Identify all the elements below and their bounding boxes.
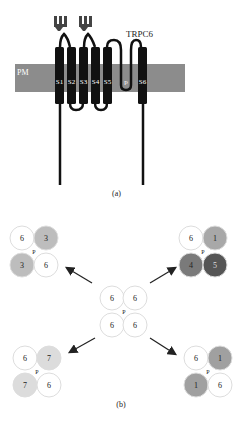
segment-label-s2: S2 — [68, 78, 76, 86]
svg-text:6: 6 — [133, 294, 137, 303]
svg-text:P: P — [122, 309, 126, 315]
svg-text:6: 6 — [47, 381, 51, 390]
tetramer-center: 6 6 6 6 P — [100, 286, 147, 337]
svg-text:6: 6 — [23, 354, 27, 363]
svg-text:6: 6 — [110, 294, 114, 303]
svg-text:P: P — [35, 369, 39, 375]
svg-text:6: 6 — [189, 234, 193, 243]
tetramer-top-left: 6 3 3 6 P — [10, 226, 58, 277]
svg-text:P: P — [201, 249, 205, 255]
svg-text:5: 5 — [213, 261, 217, 270]
segment-label-s3: S3 — [80, 78, 88, 86]
svg-text:6: 6 — [20, 234, 24, 243]
svg-text:6: 6 — [218, 381, 222, 390]
panel-b-caption: (b) — [116, 400, 126, 409]
membrane-label: PM — [17, 68, 29, 77]
segment-label-s4: S4 — [92, 78, 100, 86]
svg-text:3: 3 — [44, 234, 48, 243]
svg-text:1: 1 — [194, 381, 198, 390]
segment-label-s6: S6 — [139, 78, 147, 86]
segment-label-p: p — [124, 78, 128, 86]
panel-a: PM S1 S2 — [15, 16, 185, 198]
tetramer-top-right: 6 1 4 5 P — [179, 226, 227, 277]
panel-b: 6 3 3 6 P 6 1 4 5 P 6 6 6 6 — [10, 226, 232, 409]
tetramer-bottom-left: 6 7 7 6 P — [13, 346, 61, 397]
segment-label-s1: S1 — [56, 78, 64, 86]
arrows — [67, 268, 175, 354]
svg-text:6: 6 — [133, 321, 137, 330]
svg-text:1: 1 — [218, 354, 222, 363]
svg-text:6: 6 — [110, 321, 114, 330]
panel-a-caption: (a) — [112, 189, 121, 198]
svg-text:1: 1 — [213, 234, 217, 243]
protein-title: TRPC6 — [126, 29, 154, 39]
trpc6-figure: PM S1 S2 — [0, 0, 245, 424]
svg-text:P: P — [32, 249, 36, 255]
glycosylation-icon — [54, 16, 92, 31]
svg-text:6: 6 — [194, 354, 198, 363]
svg-text:3: 3 — [20, 261, 24, 270]
svg-text:4: 4 — [189, 261, 193, 270]
tetramer-bottom-right: 6 1 1 6 P — [184, 346, 232, 397]
segment-label-s5: S5 — [104, 78, 112, 86]
svg-text:6: 6 — [44, 261, 48, 270]
svg-text:P: P — [206, 369, 210, 375]
svg-text:7: 7 — [23, 381, 27, 390]
svg-text:7: 7 — [47, 354, 51, 363]
